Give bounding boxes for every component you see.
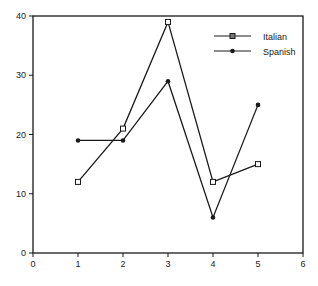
y-axis: 010203040 [16,11,33,258]
legend-label-spanish: Spanish [263,47,296,57]
square-marker-icon [211,179,216,184]
legend-item-spanish: Spanish [214,47,296,57]
square-marker-icon [121,126,126,131]
series-spanish [76,79,261,220]
circle-marker-icon [211,215,216,220]
square-marker-icon [166,19,171,24]
square-marker-icon [256,162,261,167]
line-chart: 0123456 010203040 Italian Spanish [0,0,318,286]
x-tick-label: 6 [300,259,305,269]
legend-item-italian: Italian [214,32,287,42]
circle-marker-icon [256,103,261,108]
circle-marker-icon [166,79,171,84]
legend-label-italian: Italian [263,32,287,42]
x-tick-label: 3 [165,259,170,269]
y-tick-label: 30 [16,70,26,80]
legend: Italian Spanish [214,32,296,57]
series-italian [76,19,261,184]
square-marker-icon [76,179,81,184]
y-tick-label: 20 [16,130,26,140]
series-line [78,22,258,182]
x-tick-label: 2 [120,259,125,269]
circle-marker-icon [230,49,235,54]
y-tick-label: 10 [16,189,26,199]
x-axis: 0123456 [30,253,305,269]
square-marker-icon [230,34,235,39]
circle-marker-icon [121,138,126,143]
x-tick-label: 5 [255,259,260,269]
y-tick-label: 0 [21,248,26,258]
x-tick-label: 4 [210,259,215,269]
x-tick-label: 1 [75,259,80,269]
y-tick-label: 40 [16,11,26,21]
circle-marker-icon [76,138,81,143]
x-tick-label: 0 [30,259,35,269]
